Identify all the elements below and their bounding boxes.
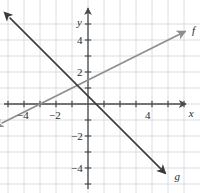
y-tick-label: 2 [77, 67, 83, 78]
coordinate-plane [0, 0, 200, 193]
y-tick-label: −2 [71, 131, 83, 142]
x-axis-label: x [189, 108, 194, 119]
function-line-f [2, 31, 186, 123]
axes [4, 8, 186, 189]
x-tick-label: −4 [17, 110, 29, 121]
y-tick-label: −4 [71, 163, 83, 174]
x-tick-label: −2 [49, 110, 61, 121]
graph-figure: x y f g −4−2442−2−4 [0, 0, 200, 193]
x-tick-label: 4 [145, 110, 151, 121]
y-axis-label: y [77, 17, 82, 28]
grid-lines [0, 0, 200, 193]
y-tick-label: 4 [77, 35, 83, 46]
function-label-g: g [174, 171, 180, 182]
function-label-f: f [192, 25, 195, 36]
plotted-lines [2, 18, 186, 174]
